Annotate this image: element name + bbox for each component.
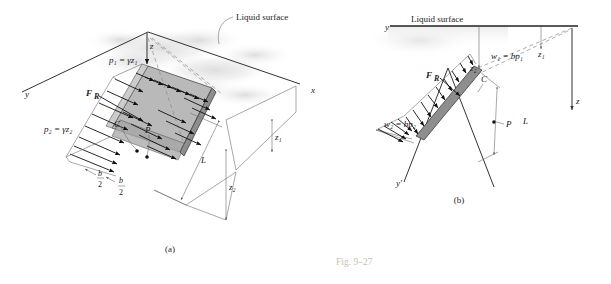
load-top-label-b: w₁ = bp₁ (491, 51, 523, 61)
pressure-top-label-a: p₁ = γz₁ (108, 55, 137, 65)
subfigure-a-label: (a) (165, 244, 175, 254)
axis-z-b: z (572, 28, 580, 110)
half-width-den-1-a: 2 (98, 180, 102, 189)
depth-top-dim-a: z₁ (272, 122, 282, 152)
resultant-force-label-a: F (85, 88, 92, 98)
depth-top-label-a: z₁ (274, 132, 282, 142)
axis-label-y-b: y (384, 22, 389, 32)
half-width-den-2-a: 2 (119, 188, 123, 197)
half-width-num-2-a: b (119, 176, 123, 185)
liquid-surface-label-a: Liquid surface (236, 12, 288, 22)
length-label-b: L (522, 116, 528, 126)
length-dim-b: L (478, 72, 528, 162)
axis-label-x-a: x (310, 85, 315, 95)
figure-9-27-container: y x z Liquid surface (0, 0, 611, 284)
length-label-a: L (200, 155, 206, 165)
half-width-dim-1-a: b 2 (85, 169, 104, 189)
surface-gradient-b (388, 26, 508, 48)
load-bottom-label-b: w₂ = bp₂ (384, 119, 416, 129)
subfigure-b-label: (b) (454, 195, 465, 205)
depth-top-label-b: z₁ (537, 49, 545, 59)
pressure-center-label-a: P (144, 125, 151, 135)
centroid-label-a: C (114, 119, 121, 129)
panel-b: Liquid surface y y′ z (365, 14, 580, 205)
axis-x-a: x (310, 85, 315, 95)
pressure-bottom-label-a: p₂ = γz₂ (43, 124, 72, 134)
axis-y-a: y (24, 89, 29, 99)
panel-a: y x z Liquid surface (22, 12, 315, 254)
load-arrows-top-b (406, 56, 473, 134)
pressure-center-label-b: P (505, 119, 512, 129)
depth-bottom-label-b: z₂ (469, 63, 477, 73)
pressure-center-point-a (145, 155, 149, 159)
axis-label-z-b: z (575, 96, 580, 106)
depth-bottom-label-a: z₂ (228, 182, 236, 192)
axis-label-z-a: z (149, 41, 154, 51)
axis-label-y-a: y (24, 89, 29, 99)
axis-label-y-prime-b: y′ (395, 178, 403, 188)
half-width-dim-2-a: b 2 (106, 176, 125, 197)
centroid-point-a (135, 149, 139, 153)
centroid-b: C (478, 74, 488, 92)
figure-caption: Fig. 9–27 (336, 257, 373, 267)
half-width-num-1-a: b (98, 169, 102, 178)
depth-top-dim-b: z₁ (537, 28, 545, 59)
resultant-force-sub-a: R (93, 92, 100, 101)
resultant-force-label-b: F (425, 70, 432, 80)
figure-canvas: y x z Liquid surface (0, 0, 611, 284)
liquid-surface-label-b: Liquid surface (411, 14, 463, 24)
resultant-force-sub-b: R (433, 74, 440, 83)
